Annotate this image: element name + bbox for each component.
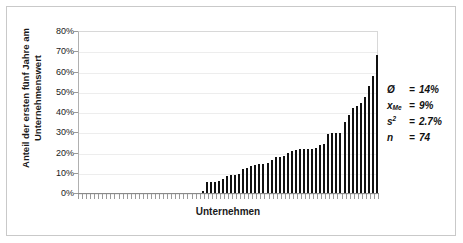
y-axis-tick-label: 20% xyxy=(40,148,74,158)
x-axis-tick-mark xyxy=(147,194,148,199)
statistic-row: n=74 xyxy=(387,132,453,148)
statistic-row: xMe=9% xyxy=(387,100,453,116)
x-axis-tick-mark xyxy=(269,194,270,199)
x-axis-tick-mark xyxy=(110,194,111,199)
x-axis-tick-mark xyxy=(131,194,132,199)
y-axis-tick-mark xyxy=(73,193,78,194)
chart-figure: Anteil der ersten fünf Jahre am Unterneh… xyxy=(0,0,463,243)
y-axis-tick-mark xyxy=(73,31,78,32)
bar xyxy=(222,179,224,193)
bar xyxy=(307,149,309,193)
bar xyxy=(348,115,350,193)
x-axis-tick-mark xyxy=(187,194,188,199)
y-axis-tick-label: 10% xyxy=(40,168,74,178)
bar xyxy=(206,182,208,193)
bar xyxy=(283,156,285,193)
x-axis-tick-mark xyxy=(232,194,233,199)
x-axis-tick-mark xyxy=(151,194,152,199)
bar xyxy=(327,134,329,193)
x-axis-tick-mark xyxy=(366,194,367,199)
x-axis-tick-mark xyxy=(354,194,355,199)
x-axis-tick-mark xyxy=(289,194,290,199)
x-axis-tick-mark xyxy=(305,194,306,199)
x-axis-tick-mark xyxy=(244,194,245,199)
x-axis-tick-mark xyxy=(281,194,282,199)
x-axis-tick-mark xyxy=(175,194,176,199)
y-axis-tick-label: 60% xyxy=(40,67,74,77)
bar xyxy=(210,182,212,193)
x-axis-tick-mark xyxy=(119,194,120,199)
bar xyxy=(319,145,321,193)
x-axis-tick-mark xyxy=(204,194,205,199)
bar xyxy=(291,151,293,193)
x-axis-tick-mark xyxy=(98,194,99,199)
x-axis-tick-mark xyxy=(106,194,107,199)
y-axis-tick-mark xyxy=(73,51,78,52)
bar xyxy=(295,150,297,193)
x-axis-tick-mark xyxy=(163,194,164,199)
x-axis-tick-mark xyxy=(114,194,115,199)
bar xyxy=(242,169,244,193)
y-axis-tick-label: 70% xyxy=(40,46,74,56)
x-axis-tick-mark xyxy=(350,194,351,199)
y-axis-tick-mark xyxy=(73,173,78,174)
x-axis-tick-mark xyxy=(171,194,172,199)
bar xyxy=(250,166,252,193)
x-axis-title: Unternehmen xyxy=(78,206,378,217)
y-axis-tick-mark xyxy=(73,132,78,133)
statistic-symbol: s2 xyxy=(387,116,409,127)
bar xyxy=(299,149,301,193)
bar xyxy=(323,144,325,193)
x-axis-tick-mark xyxy=(123,194,124,199)
bar xyxy=(230,175,232,193)
x-axis-tick-mark xyxy=(362,194,363,199)
bar xyxy=(262,164,264,193)
x-axis-tick-mark xyxy=(309,194,310,199)
bar xyxy=(238,174,240,193)
x-axis-tick-mark xyxy=(333,194,334,199)
bar xyxy=(372,76,374,193)
x-axis-tick-mark xyxy=(208,194,209,199)
bar xyxy=(279,157,281,193)
bar xyxy=(339,133,341,193)
bar xyxy=(311,149,313,193)
bar xyxy=(331,133,333,193)
x-axis-tick-mark xyxy=(90,194,91,199)
x-axis-tick-mark xyxy=(329,194,330,199)
bar xyxy=(303,149,305,193)
x-axis-tick-mark xyxy=(260,194,261,199)
y-axis-tick-label: 80% xyxy=(40,26,74,36)
statistics-annotation: Ø=14%xMe=9%s2=2.7%n=74 xyxy=(387,84,453,148)
x-axis-tick-mark xyxy=(155,194,156,199)
y-axis-tick-mark xyxy=(73,92,78,93)
x-axis-tick-mark xyxy=(167,194,168,199)
x-axis-tick-mark xyxy=(248,194,249,199)
x-axis-tick-mark xyxy=(264,194,265,199)
x-axis-tick-mark xyxy=(183,194,184,199)
x-axis-tick-mark xyxy=(220,194,221,199)
bar xyxy=(287,153,289,193)
x-axis-tick-mark xyxy=(135,194,136,199)
bar xyxy=(364,97,366,193)
bar xyxy=(267,163,269,193)
x-axis-tick-mark xyxy=(378,194,379,199)
x-axis-tick-mark xyxy=(192,194,193,199)
x-axis-tick-mark xyxy=(273,194,274,199)
x-axis-tick-mark xyxy=(94,194,95,199)
statistic-value: 74 xyxy=(419,132,453,143)
x-axis-tick-mark xyxy=(78,194,79,199)
x-axis-tick-mark xyxy=(337,194,338,199)
x-axis-tick-mark xyxy=(240,194,241,199)
x-axis-tick-mark xyxy=(325,194,326,199)
x-axis-tick-mark xyxy=(346,194,347,199)
bar xyxy=(258,164,260,193)
y-axis-title-line-1: Anteil der ersten fünf Jahre am xyxy=(20,3,32,193)
bar xyxy=(271,160,273,193)
y-axis-tick-labels: 0%10%20%30%40%50%60%70%80% xyxy=(40,26,74,198)
bar xyxy=(376,55,378,193)
bar xyxy=(226,176,228,193)
bar xyxy=(360,103,362,193)
statistic-row: s2=2.7% xyxy=(387,116,453,132)
x-axis-tick-mark xyxy=(301,194,302,199)
x-axis-tick-mark xyxy=(228,194,229,199)
